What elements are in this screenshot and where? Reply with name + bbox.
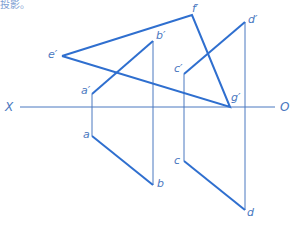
axis-label-x: X (5, 101, 13, 113)
point-label-c-prime: c′ (174, 63, 183, 74)
point-label-e-prime: e′ (48, 49, 57, 60)
point-label-f-prime: f′ (192, 3, 198, 14)
point-label-a-prime: a′ (81, 85, 90, 96)
projection-diagram (0, 0, 295, 225)
axis-label-o: O (280, 101, 289, 113)
point-label-b-prime: b′ (156, 30, 165, 41)
line-cd-front-view (184, 22, 245, 74)
point-label-c: c (174, 155, 180, 166)
point-label-g-prime: g′ (231, 92, 240, 103)
point-label-d: d (247, 207, 254, 218)
line-cd-top-view (184, 161, 245, 210)
point-label-a: a (83, 129, 90, 140)
point-label-b: b (157, 178, 164, 189)
point-label-d-prime: d′ (248, 14, 257, 25)
line-ab-top-view (92, 136, 153, 185)
